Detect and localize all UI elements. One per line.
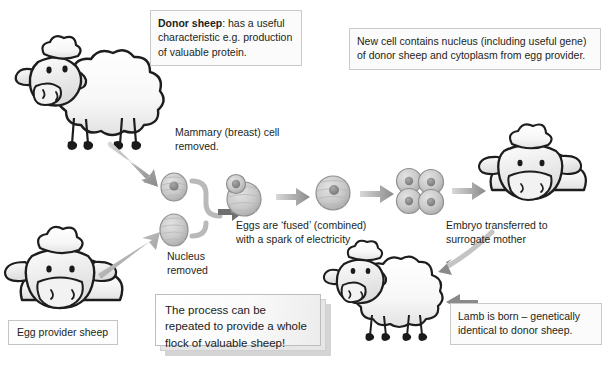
cloning-diagram-canvas: Donor sheep: has a useful characteristic… [0,0,611,384]
label-embryo-transferred: Embryo transferred to surrogate mother [446,218,564,247]
callout-lamb-born: Lamb is born – genetically identical to … [450,303,602,345]
label-egg-provider-sheep: Egg provider sheep [8,320,118,345]
arrow-provider-to-egg-cell [98,232,160,279]
donor-sheep-illustration [16,36,164,150]
fusing-cell-pair [227,175,262,217]
callout-new-cell-text: New cell contains nucleus (including use… [357,35,586,61]
callout-donor-sheep-lead: Donor sheep [158,17,222,29]
arrow-fused-to-embryo [360,185,394,203]
label-nucleus-removed: Nucleus removed [167,249,247,278]
callout-new-cell: New cell contains nucleus (including use… [349,28,601,70]
surrogate-mother-sheep-illustration [479,124,586,200]
label-mammary-cell: Mammary (breast) cell removed. [175,125,285,154]
label-eggs-fused: Eggs are ‘fused’ (combined) with a spark… [236,218,384,247]
cloned-lamb-illustration [324,241,443,341]
arrow-fusion-to-fused-cell [276,188,310,206]
fused-single-cell [316,176,350,210]
callout-process-repeat-text: The process can be repeated to provide a… [165,304,307,349]
arrow-donor-to-mammary-cell [107,141,158,187]
note-front: The process can be repeated to provide a… [155,294,321,346]
egg-provider-sheep-illustration [5,227,122,308]
callout-lamb-born-text: Lamb is born – genetically identical to … [458,310,580,336]
four-cell-embryo [397,169,444,215]
enucleated-egg-cell [160,214,188,246]
callout-process-repeat: The process can be repeated to provide a… [155,294,321,346]
mammary-cell-with-nucleus [161,173,187,201]
callout-donor-sheep: Donor sheep: has a useful characteristic… [150,10,302,66]
arrow-embryo-to-surrogate [452,182,486,200]
